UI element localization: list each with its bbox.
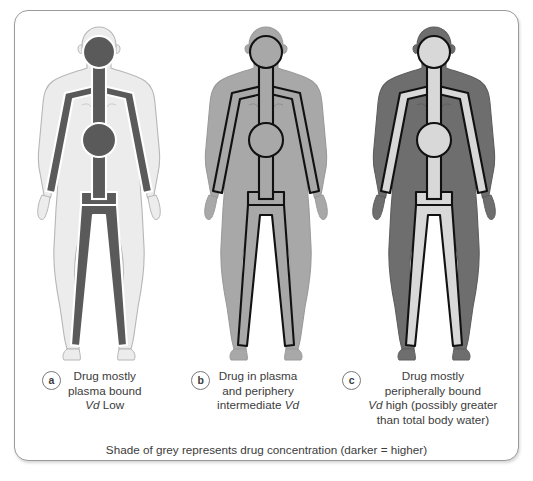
caption-text-a: Drug mostly plasma bound Vd Low [68,369,141,413]
body-figure-a [24,19,174,364]
caption-c-line-3: Vd high (possibly greater [368,398,497,413]
ear-left-c [413,45,417,54]
foot-left-b [230,349,247,360]
ear-left-b [245,45,249,54]
caption-b-line-2: and periphery [217,384,299,399]
hand-right-c [483,195,495,219]
vd-label-a: Vd [85,398,99,411]
vessel-head-a [83,36,115,68]
body-figure-b [191,19,341,364]
foot-left-a [63,349,80,360]
caption-marker-b: b [191,371,210,390]
hand-left-a [38,195,50,219]
caption-c-line-1: Drug mostly [368,369,497,384]
foot-right-c [453,349,470,360]
legend-text: Shade of grey represents drug concentrat… [15,443,518,456]
vessel-legs-b [238,205,294,346]
vessel-core-b [249,123,283,157]
caption-b-line-3: intermediate Vd [217,398,299,413]
hand-right-a [148,195,160,219]
body-figure-c [359,19,509,364]
foot-right-b [285,349,302,360]
ear-right-a [116,45,120,54]
vessel-legs-c [406,205,462,346]
caption-a-line-2: plasma bound [68,384,141,399]
hand-left-b [205,195,217,219]
foot-right-a [117,349,134,360]
vd-label-b: Vd [285,398,299,411]
caption-b-line-1: Drug in plasma [217,369,299,384]
vd-label-c: Vd [368,398,382,411]
caption-marker-c: c [342,371,361,390]
caption-c-line-4: than total body water) [368,413,497,428]
ear-right-b [283,45,287,54]
vessel-core-a [82,123,116,157]
caption-text-b: Drug in plasma and periphery intermediat… [217,369,299,413]
caption-a: a Drug mostly plasma bound Vd Low [15,367,168,429]
vd-rest-c: high (possibly greater [383,398,498,411]
caption-text-c: Drug mostly peripherally bound Vd high (… [368,369,497,427]
foot-left-c [398,349,415,360]
ear-right-c [451,45,455,54]
caption-b: b Drug in plasma and periphery intermedi… [168,367,321,429]
ear-left-a [78,45,82,54]
vd-rest-a: Low [99,398,124,411]
caption-a-line-1: Drug mostly [68,369,141,384]
vessel-legs-a [71,205,127,346]
body-figures-row [15,19,518,367]
hand-right-b [315,195,327,219]
vd-rest-b: intermediate [217,398,285,411]
caption-marker-a: a [42,371,61,390]
vessel-core-c [417,123,451,157]
diagram-panel: a Drug mostly plasma bound Vd Low b Drug… [14,10,519,461]
caption-c: c Drug mostly peripherally bound Vd high… [322,367,518,429]
hand-left-c [373,195,385,219]
captions-row: a Drug mostly plasma bound Vd Low b Drug… [15,367,518,429]
caption-a-line-3: Vd Low [68,398,141,413]
vessel-head-c [418,36,450,68]
caption-c-line-2: peripherally bound [368,384,497,399]
vessel-head-b [250,36,282,68]
